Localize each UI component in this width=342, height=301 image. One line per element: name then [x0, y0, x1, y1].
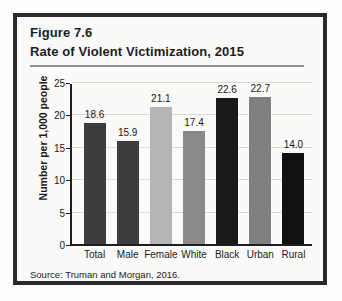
x-axis-category-label: White: [181, 249, 207, 260]
y-tick-label: 5: [59, 207, 65, 218]
source-note: Source: Truman and Morgan, 2016.: [30, 269, 180, 280]
bar[interactable]: 14.0Rural: [282, 153, 304, 244]
bar[interactable]: 15.9Male: [117, 141, 139, 244]
bar-value-label: 17.4: [184, 117, 203, 128]
chart-region: Number per 1,000 people 0510152025 18.6T…: [17, 72, 323, 262]
x-axis-line: [70, 244, 312, 246]
figure-frame: Figure 7.6 Rate of Violent Victimization…: [13, 13, 327, 285]
plot-area: 0510152025 18.6Total15.9Male21.1Female17…: [70, 84, 312, 246]
y-tick-mark: [66, 83, 70, 84]
y-tick-mark: [66, 148, 70, 149]
bar[interactable]: 18.6Total: [84, 123, 106, 244]
gridline: [72, 114, 312, 115]
bar[interactable]: 17.4White: [183, 131, 205, 244]
x-axis-category-label: Male: [117, 249, 139, 260]
bar-value-label: 21.1: [151, 93, 170, 104]
title-divider: [30, 65, 304, 67]
bar[interactable]: 22.6Black: [216, 98, 238, 244]
x-axis-category-label: Urban: [247, 249, 274, 260]
y-axis-line: [70, 84, 72, 246]
bar-value-label: 22.7: [251, 83, 270, 94]
x-axis-category-label: Black: [215, 249, 239, 260]
figure-screenshot: Figure 7.6 Rate of Violent Victimization…: [0, 0, 342, 301]
y-tick-label: 20: [54, 110, 65, 121]
figure-panel: Figure 7.6 Rate of Violent Victimization…: [17, 17, 323, 281]
figure-heading: Figure 7.6 Rate of Violent Victimization…: [30, 25, 305, 60]
bar-value-label: 18.6: [85, 109, 104, 120]
x-axis-category-label: Rural: [281, 249, 305, 260]
y-tick-label: 25: [54, 78, 65, 89]
y-tick-mark: [66, 180, 70, 181]
bar-value-label: 22.6: [217, 84, 236, 95]
y-tick-label: 0: [59, 240, 65, 251]
figure-title: Rate of Violent Victimization, 2015: [30, 43, 305, 60]
y-tick-mark: [66, 213, 70, 214]
bar-value-label: 15.9: [118, 127, 137, 138]
y-tick-label: 10: [54, 175, 65, 186]
bar[interactable]: 22.7Urban: [249, 97, 271, 244]
x-axis-category-label: Total: [84, 249, 105, 260]
y-tick-label: 15: [54, 142, 65, 153]
y-tick-mark: [66, 115, 70, 116]
figure-number: Figure 7.6: [30, 25, 305, 41]
y-axis-title: Number per 1,000 people: [37, 68, 49, 208]
x-axis-category-label: Female: [144, 249, 177, 260]
y-tick-mark: [66, 245, 70, 246]
gridline: [72, 82, 312, 83]
bar[interactable]: 21.1Female: [150, 107, 172, 244]
bar-value-label: 14.0: [284, 139, 303, 150]
